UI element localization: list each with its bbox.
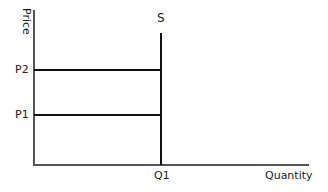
supply-curve-label: S	[157, 12, 165, 24]
chart-plot-area	[0, 0, 328, 192]
y-tick-p2: P2	[15, 64, 29, 76]
supply-chart: Price P2 P1 S Q1 Quantity	[0, 0, 328, 192]
x-tick-q1: Q1	[154, 170, 170, 182]
y-tick-p1: P1	[15, 109, 29, 121]
y-axis-title: Price	[20, 8, 32, 35]
x-axis-title: Quantity	[265, 170, 313, 182]
